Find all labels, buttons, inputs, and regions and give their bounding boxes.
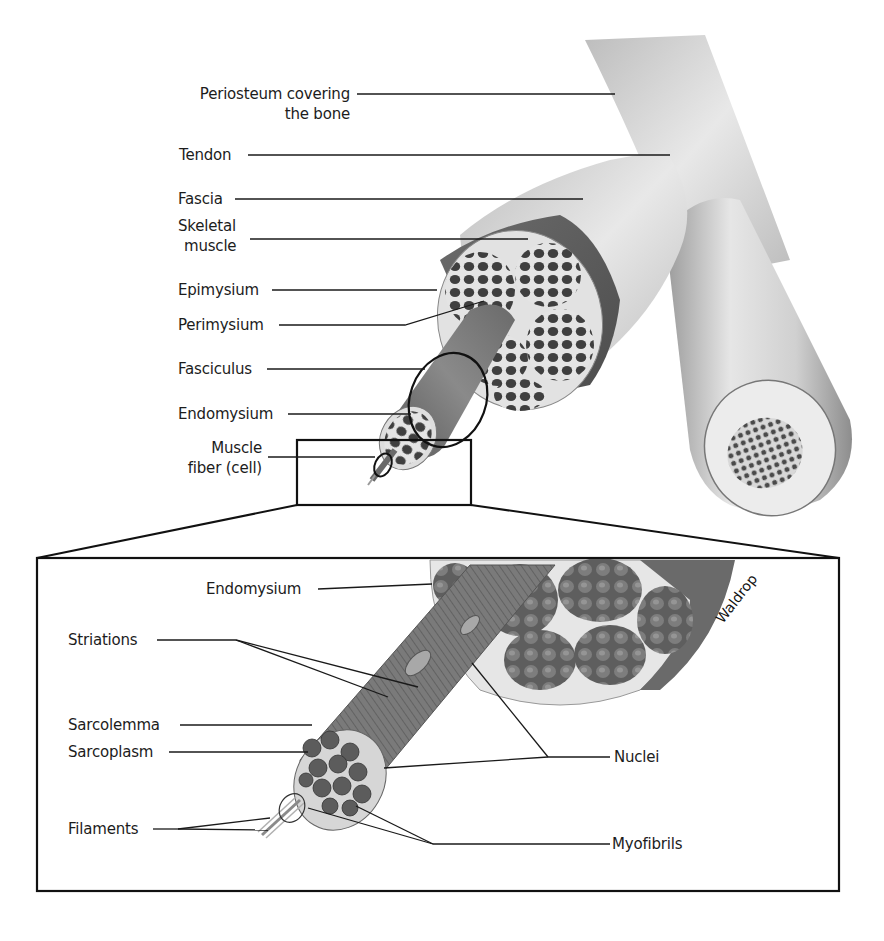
label-sarcoplasm: Sarcoplasm — [68, 742, 153, 762]
label-nuclei: Nuclei — [614, 747, 659, 767]
label-fascia: Fascia — [178, 189, 223, 209]
label-perimysium: Perimysium — [178, 315, 264, 335]
label-muscle-fiber: Muscle fiber (cell) — [160, 438, 262, 478]
label-periosteum: Periosteum covering the bone — [160, 84, 350, 124]
muscle-anatomy-illustration — [0, 0, 884, 941]
label-skeletal-muscle: Skeletal muscle — [178, 216, 236, 256]
label-tendon: Tendon — [179, 145, 231, 165]
label-endomysium: Endomysium — [178, 404, 273, 424]
label-striations: Striations — [68, 630, 137, 650]
label-filaments: Filaments — [68, 819, 138, 839]
label-epimysium: Epimysium — [178, 280, 259, 300]
label-fasciculus: Fasciculus — [178, 359, 252, 379]
label-inset-endomysium: Endomysium — [206, 579, 301, 599]
label-myofibrils: Myofibrils — [612, 834, 682, 854]
label-sarcolemma: Sarcolemma — [68, 715, 160, 735]
